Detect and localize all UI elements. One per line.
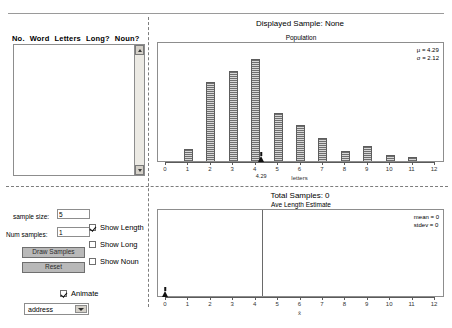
- column-header-no: No.: [12, 34, 25, 43]
- axis-tick: [434, 162, 435, 165]
- axis-tick-label: 2: [208, 301, 211, 307]
- axis-tick-label: 4: [253, 301, 256, 307]
- mean-marker-icon: [258, 156, 264, 162]
- show-long-checkbox[interactable]: [89, 241, 96, 248]
- histogram-bar: [386, 155, 395, 161]
- estimate-x-axis: 0123456789101112x̄: [157, 297, 444, 319]
- sample-list-scrollbar[interactable]: [134, 44, 145, 176]
- show-noun-checkbox[interactable]: [89, 258, 96, 265]
- axis-tick: [165, 297, 166, 300]
- axis-tick: [187, 297, 188, 300]
- mean-marker-stem: [164, 287, 166, 291]
- axis-tick-label: 4: [253, 166, 256, 172]
- axis-tick-label: 11: [408, 166, 414, 172]
- axis-tick: [389, 297, 390, 300]
- word-source-dropdown[interactable]: address: [24, 303, 89, 315]
- show-noun-label: Show Noun: [100, 257, 139, 266]
- show-length-checkbox-row[interactable]: Show Length: [89, 223, 144, 232]
- histogram-bar: [341, 151, 350, 161]
- mean-marker-stem: [260, 152, 262, 156]
- axis-tick-label: 12: [431, 301, 438, 307]
- axis-tick: [434, 297, 435, 300]
- show-length-checkbox[interactable]: [89, 224, 96, 231]
- histogram-bar: [363, 146, 372, 161]
- reference-vertical-line: [262, 210, 263, 296]
- show-long-label: Show Long: [100, 240, 138, 249]
- histogram-bar: [274, 113, 283, 161]
- mean-marker-icon: [162, 291, 168, 297]
- axis-tick: [300, 297, 301, 300]
- column-header-long: Long?: [86, 34, 110, 43]
- displayed-sample-label: Displayed Sample: None: [0, 19, 452, 28]
- column-header-word: Word: [30, 34, 50, 43]
- axis-tick: [232, 297, 233, 300]
- axis-tick-label: 3: [231, 166, 234, 172]
- axis-tick-label: 11: [408, 301, 414, 307]
- num-samples-input[interactable]: [57, 227, 90, 237]
- axis-tick: [210, 162, 211, 165]
- axis-tick: [389, 162, 390, 165]
- axis-caption: letters: [291, 175, 307, 181]
- histogram-bar: [251, 59, 260, 161]
- axis-tick: [277, 297, 278, 300]
- show-noun-checkbox-row[interactable]: Show Noun: [89, 257, 139, 266]
- axis-tick-label: 7: [320, 166, 323, 172]
- axis-tick: [255, 162, 256, 165]
- top-divider: [8, 13, 444, 14]
- vertical-divider: [148, 17, 149, 307]
- axis-tick: [412, 162, 413, 165]
- population-plot-area: [158, 43, 443, 161]
- axis-tick: [412, 297, 413, 300]
- chevron-down-icon[interactable]: [75, 305, 87, 313]
- histogram-bar: [206, 82, 215, 161]
- axis-tick: [322, 297, 323, 300]
- axis-tick-label: 10: [386, 301, 393, 307]
- show-length-label: Show Length: [100, 223, 144, 232]
- column-header-letters: Letters: [55, 34, 81, 43]
- sampling-distribution-applet: No.WordLettersLong?Noun? sample size: Nu…: [0, 0, 452, 328]
- draw-samples-button[interactable]: Draw Samples: [22, 247, 85, 258]
- horizontal-divider: [6, 186, 448, 187]
- show-long-checkbox-row[interactable]: Show Long: [89, 240, 138, 249]
- axis-tick-label: 2: [208, 166, 211, 172]
- estimate-chart-title: Ave Length Estimate: [157, 201, 445, 208]
- axis-tick-label: 5: [275, 301, 278, 307]
- axis-tick: [210, 297, 211, 300]
- population-chart-panel: μ = 4.29 σ = 2.12: [157, 42, 444, 162]
- mean-value-label: 4.29: [256, 173, 267, 179]
- reset-button[interactable]: Reset: [22, 262, 85, 273]
- scroll-up-arrow-icon[interactable]: [135, 45, 144, 55]
- scrollbar-track[interactable]: [135, 55, 144, 165]
- axis-tick: [232, 162, 233, 165]
- axis-tick: [277, 162, 278, 165]
- animate-checkbox[interactable]: [60, 290, 67, 297]
- axis-tick-label: 10: [386, 166, 393, 172]
- histogram-bar: [229, 71, 238, 161]
- axis-tick-label: 12: [431, 166, 438, 172]
- axis-tick: [344, 162, 345, 165]
- word-source-dropdown-value: address: [28, 306, 53, 313]
- axis-tick-label: 1: [186, 166, 189, 172]
- column-header-noun: Noun?: [115, 34, 140, 43]
- axis-tick-label: 9: [365, 301, 368, 307]
- axis-tick-label: 3: [231, 301, 234, 307]
- population-chart-title: Population: [157, 34, 445, 41]
- scroll-down-arrow-icon[interactable]: [135, 165, 144, 175]
- population-x-axis: 0123456789101112letters4.29: [157, 162, 444, 184]
- animate-checkbox-row[interactable]: Animate: [60, 289, 99, 298]
- axis-tick: [367, 297, 368, 300]
- axis-tick: [344, 297, 345, 300]
- axis-tick: [165, 162, 166, 165]
- sample-size-label: sample size:: [13, 213, 49, 220]
- axis-tick-label: 1: [186, 301, 189, 307]
- axis-tick-label: 7: [320, 301, 323, 307]
- sample-size-input[interactable]: [57, 209, 90, 219]
- num-samples-label: Num samples:: [6, 231, 48, 238]
- sample-list-box[interactable]: [13, 44, 135, 176]
- axis-tick-label: 9: [365, 166, 368, 172]
- histogram-bar: [408, 157, 417, 161]
- sample-table-header: No.WordLettersLong?Noun?: [12, 34, 145, 43]
- total-samples-label: Total Samples: 0: [0, 191, 452, 200]
- axis-tick: [300, 162, 301, 165]
- axis-tick-label: 5: [275, 166, 278, 172]
